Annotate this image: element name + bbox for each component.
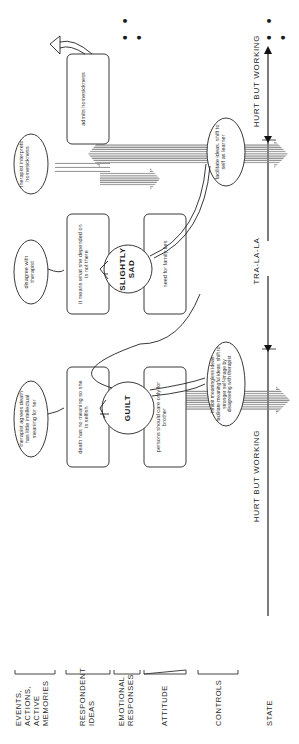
- row-label-state: STATE: [265, 672, 274, 726]
- emotion-guilt: GUILT: [123, 382, 132, 434]
- emotional-sequence-diagram: EVENTS, ACTIONS, ACTIVE MEMORIES RESPOND…: [0, 0, 299, 744]
- dashed-arrow: [55, 162, 110, 172]
- state-marker-2: [262, 136, 276, 143]
- row-label-respondent-ideas: RESPONDENT IDEAS: [78, 674, 96, 726]
- attitude-family-ties: need for family ties: [162, 224, 168, 304]
- attitude-care-for-brother: persons should care only for brother: [155, 380, 168, 454]
- control-facilitate: facilitate ideas. shift to self as learn…: [214, 124, 227, 180]
- idea-death-no-meaning: death has no meaning so she is selfish: [77, 380, 90, 454]
- row-label-events: EVENTS, ACTIONS, ACTIVE MEMORIES: [14, 678, 50, 726]
- state-hurt-but-working-1: HURT BUT WORKING: [252, 416, 261, 536]
- continuation-dots-state: • • •: [262, 0, 290, 40]
- idea-depended-on: it means what she depended on is not the…: [77, 222, 90, 306]
- state-tra-la-la: TRA-LA-LA: [252, 216, 261, 306]
- event-therapist-interprets: therapist interprets homesickness: [18, 140, 31, 188]
- row-label-attitude: ATTITUDE: [160, 672, 169, 726]
- continuation-dots-top: • • •: [118, 0, 146, 40]
- event-disagree: disagree with therapist: [23, 248, 36, 296]
- state-hurt-but-working-2: HURT BUT WORKING: [252, 26, 261, 136]
- event-admits-homesickness: admits homesickness: [80, 62, 86, 136]
- state-marker-1: [262, 345, 276, 352]
- row-label-emotional-responses: EMOTIONAL RESPONSES: [117, 672, 135, 726]
- emotion-slightly-sad: SLIGHTLY SAD: [118, 245, 136, 293]
- control-inhibit: inhibit meaningless ideas. facilitate me…: [210, 346, 233, 422]
- hatched-arrow-2: [88, 140, 288, 168]
- event-therapist-agrees: therapist agrees death has little intell…: [18, 386, 37, 452]
- row-label-controls: CONTROLS: [214, 672, 223, 726]
